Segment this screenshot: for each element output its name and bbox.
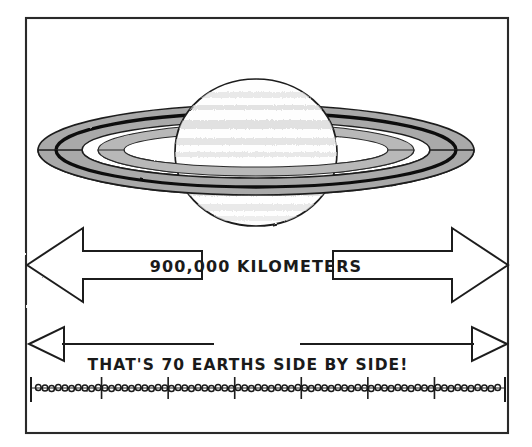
saturn-size-illustration: 900,000 KILOMETERS THAT'S 70 EARTHS SIDE… (0, 0, 532, 447)
saturn-body (170, 79, 346, 226)
earth-count-ruler (31, 377, 505, 402)
kilometers-label: 900,000 KILOMETERS (150, 257, 362, 276)
illustration-canvas: 900,000 KILOMETERS THAT'S 70 EARTHS SIDE… (0, 0, 532, 447)
earths-label: THAT'S 70 EARTHS SIDE BY SIDE! (88, 356, 409, 374)
saturn-group (38, 79, 474, 226)
